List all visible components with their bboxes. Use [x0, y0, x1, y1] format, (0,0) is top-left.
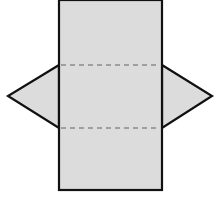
prism-net-diagram	[0, 0, 217, 199]
right-triangle-face	[162, 65, 212, 128]
left-triangle-face	[8, 65, 59, 128]
rectangular-faces	[59, 0, 162, 190]
